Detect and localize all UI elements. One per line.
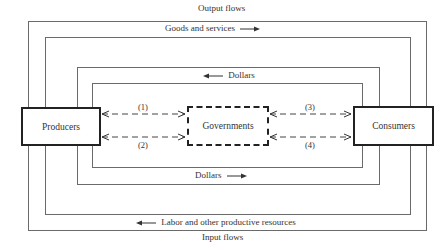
input-flows-caption: Input flows: [199, 232, 246, 243]
link-4-label: (4): [305, 140, 315, 150]
governments-label: Governments: [202, 121, 253, 131]
output-flows-caption: Output flows: [195, 3, 248, 14]
dollars-flow-top: Dollars: [197, 70, 258, 81]
link-1-label: (1): [138, 102, 148, 112]
labor-resources-flow: Labor and other productive resources: [130, 217, 299, 228]
goods-and-services-flow: Goods and services: [162, 23, 266, 34]
producers-label: Producers: [42, 122, 80, 132]
dollars-label-top: Dollars: [228, 70, 255, 80]
governments-node: Governments: [187, 106, 269, 146]
consumers-label: Consumers: [372, 121, 415, 131]
dollars-label-bottom: Dollars: [195, 170, 222, 180]
labor-resources-label: Labor and other productive resources: [161, 217, 295, 227]
arrow-right-icon: [227, 172, 247, 180]
arrow-left-icon: [203, 72, 223, 80]
link-2-label: (2): [138, 140, 148, 150]
consumers-node: Consumers: [353, 106, 434, 146]
producers-node: Producers: [21, 107, 101, 146]
goods-and-services-label: Goods and services: [165, 23, 235, 33]
link-3-label: (3): [305, 102, 315, 112]
arrow-right-icon: [240, 25, 260, 33]
dollars-flow-bottom: Dollars: [192, 170, 253, 181]
arrow-left-icon: [136, 219, 156, 227]
